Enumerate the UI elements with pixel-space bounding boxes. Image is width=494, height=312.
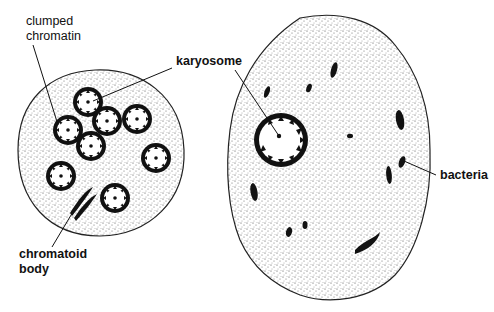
label-bacteria: bacteria [440,168,488,183]
label-clumped-chromatin: clumped chromatin [26,14,81,44]
cyst-nucleus [122,104,152,134]
cyst-nucleus [141,143,171,173]
label-line: clumped [26,14,81,29]
cyst-nucleus [100,183,130,213]
cyst-cell [18,70,184,236]
cyst-nucleus [76,131,106,161]
trophozoite-cell [228,15,431,300]
cyst-nucleus [46,161,76,191]
label-line: chromatoid [19,247,87,262]
label-line: chromatin [26,29,81,44]
label-line: body [19,262,87,277]
cyst-nucleus [92,106,122,136]
label-karyosome: karyosome [176,54,242,69]
trophozoite-nucleus [254,113,308,167]
label-chromatoid-body: chromatoid body [19,247,87,277]
